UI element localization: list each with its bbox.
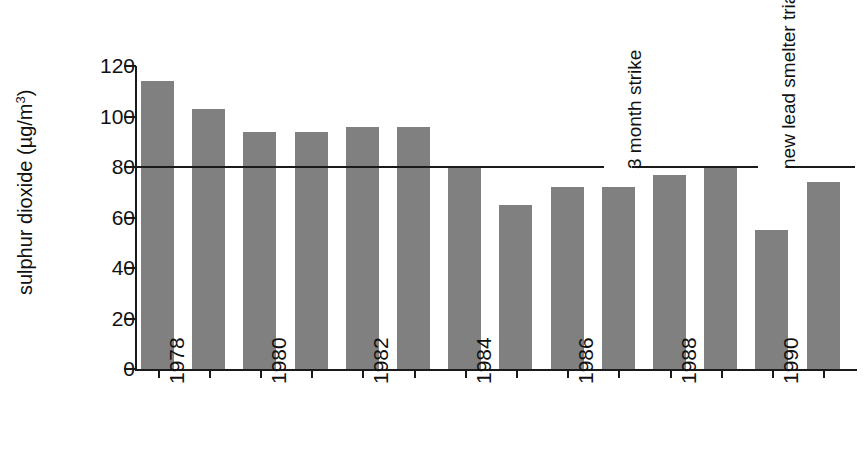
x-axis-tick-label: 1980 [268,337,289,384]
x-axis-tick [209,371,211,378]
x-axis-tick-label: 1982 [370,337,391,384]
x-axis-tick [772,371,774,378]
x-axis-tick [260,371,262,378]
x-axis-tick-label: 1988 [678,337,699,384]
x-axis-tick-label: 1990 [780,337,801,384]
bar [346,127,379,369]
x-axis-tick [618,371,620,378]
y-axis-tick [124,217,136,219]
x-axis-tick [465,371,467,378]
y-axis-tick [124,116,136,118]
bar [704,167,737,369]
x-axis-tick [362,371,364,378]
x-axis-tick-label: 1978 [166,337,187,384]
x-axis-tick [414,371,416,378]
y-axis-tick-labels: 020406080100120 [0,66,135,376]
bar [141,81,174,369]
x-axis-tick-label: 1986 [575,337,596,384]
bar [499,205,532,369]
x-axis-tick [721,371,723,378]
y-axis-tick [124,267,136,269]
x-axis-tick-label: 1984 [473,337,494,384]
bar [602,187,635,369]
y-axis-line [135,66,137,371]
reference-line-segment [137,166,604,168]
y-axis-tick [124,166,136,168]
x-axis-tick [516,371,518,378]
y-axis-tick [124,318,136,320]
plot-annotation: 3 month strike [625,50,644,169]
x-axis-tick [670,371,672,378]
x-axis-line [135,369,857,371]
x-axis-tick [158,371,160,378]
y-axis-tick [124,65,136,67]
plot-area: 3 month strikenew lead smelter trials [135,66,855,371]
x-axis-tick [823,371,825,378]
chart-figure: sulphur dioxide (µg/m3) 020406080100120 … [0,0,867,470]
reference-line-segment [632,166,758,168]
plot-annotation: new lead smelter trials [779,0,798,169]
x-axis-tick [567,371,569,378]
x-axis-tick [311,371,313,378]
bar [807,182,840,369]
bar [397,127,430,369]
bar [192,109,225,369]
y-axis-tick [124,368,136,370]
